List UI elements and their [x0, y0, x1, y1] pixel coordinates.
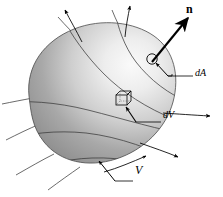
control-volume-figure: n dA dV V: [0, 0, 223, 197]
volume-label: V: [135, 164, 142, 176]
area-element-label: dA: [195, 68, 206, 78]
blob-body: [29, 23, 176, 163]
streamline-in-3: [2, 98, 33, 104]
normal-vector-label: n: [186, 3, 193, 15]
streamline-in-5: [16, 154, 54, 175]
volume-element-label: dV: [163, 110, 174, 120]
control-volume-surface: [0, 8, 196, 192]
volume-leader-arrow: [99, 161, 115, 181]
volume-label-leader: [99, 161, 133, 181]
streamline-in-6: [48, 167, 80, 190]
surface-streamline-6: [46, 172, 104, 192]
flux-arrow-right-low: [140, 143, 178, 157]
figure-canvas: [0, 0, 223, 197]
